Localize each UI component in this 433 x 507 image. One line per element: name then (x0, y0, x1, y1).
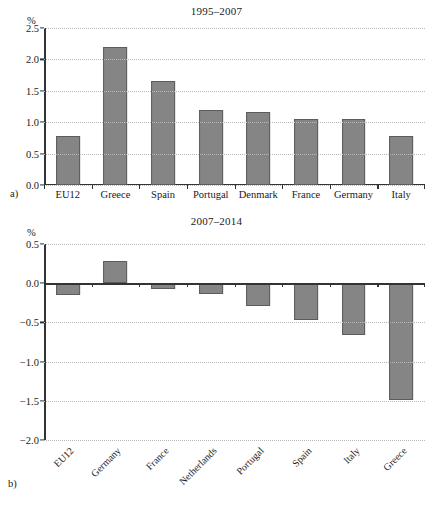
x-tick-mark (377, 185, 378, 189)
x-tick-mark (187, 283, 188, 287)
bar[interactable] (199, 283, 223, 294)
gridline (44, 91, 425, 92)
x-tick-label: Denmark (239, 189, 278, 200)
gridline (44, 28, 425, 29)
x-tick-mark (92, 283, 93, 287)
gridline (44, 362, 425, 363)
y-tick-label: 2.0 (26, 54, 39, 65)
bar-group: Denmark (235, 28, 283, 185)
y-tick-label: 1.5 (26, 85, 39, 96)
bar[interactable] (56, 283, 80, 295)
y-tick-mark (40, 439, 44, 440)
x-tick-label: Netherlands (177, 445, 219, 487)
y-tick-label: 2.5 (26, 23, 39, 34)
bar-group: France (282, 28, 330, 185)
bar-series-a: EU12GreeceSpainPortugalDenmarkFranceGerm… (44, 28, 425, 185)
chart-panel-b: 2007–2014 % EU12GermanyFranceNetherlands… (0, 213, 433, 507)
x-tick-mark (92, 185, 93, 189)
bar[interactable] (199, 110, 223, 185)
bar-group: Netherlands (187, 244, 235, 440)
x-tick-label: Italy (392, 189, 411, 200)
panel-letter-a: a) (10, 188, 18, 199)
y-tick-label: 0.0 (26, 180, 39, 191)
y-tick-mark (40, 27, 44, 28)
y-tick-label: −1.5 (20, 395, 39, 406)
y-tick-label: 0.0 (26, 278, 39, 289)
x-tick-mark (330, 283, 331, 287)
gridline (44, 440, 425, 441)
bar-group: Greece (92, 28, 140, 185)
plot-area-a: EU12GreeceSpainPortugalDenmarkFranceGerm… (44, 28, 425, 185)
y-tick-label: 0.5 (26, 239, 39, 250)
x-tick-label: France (292, 189, 321, 200)
x-tick-mark (235, 185, 236, 189)
chart-title-a: 1995–2007 (0, 5, 433, 17)
x-tick-label: Greece (381, 445, 409, 473)
bar-group: Germany (330, 28, 378, 185)
gridline (44, 122, 425, 123)
bar[interactable] (246, 283, 270, 306)
bar[interactable] (151, 81, 175, 185)
bar-group: Italy (377, 28, 425, 185)
x-tick-label: Germany (334, 189, 373, 200)
bar[interactable] (104, 47, 128, 185)
bar[interactable] (389, 136, 413, 185)
x-tick-label: Portugal (234, 445, 266, 477)
plot-area-b: EU12GermanyFranceNetherlandsPortugalSpai… (44, 244, 425, 440)
bar-group: Italy (330, 244, 378, 440)
y-tick-mark (40, 243, 44, 244)
figure: 1995–2007 % EU12GreeceSpainPortugalDenma… (0, 0, 433, 507)
gridline (44, 59, 425, 60)
x-tick-mark (139, 185, 140, 189)
x-tick-mark (330, 185, 331, 189)
y-tick-mark (40, 400, 44, 401)
bar[interactable] (56, 136, 80, 185)
x-tick-label: Greece (101, 189, 131, 200)
x-tick-label: Portugal (193, 189, 229, 200)
gridline (44, 322, 425, 323)
y-tick-mark (40, 90, 44, 91)
x-tick-mark (187, 185, 188, 189)
x-tick-mark (235, 283, 236, 287)
x-tick-mark (377, 283, 378, 287)
x-tick-label: Spain (290, 445, 314, 469)
y-tick-label: −1.0 (20, 356, 39, 367)
x-tick-mark (44, 185, 45, 189)
chart-panel-a: 1995–2007 % EU12GreeceSpainPortugalDenma… (0, 0, 433, 210)
bar-group: Portugal (235, 244, 283, 440)
gridline (44, 401, 425, 402)
x-tick-mark (44, 283, 45, 287)
x-tick-label: EU12 (51, 445, 75, 469)
bar-group: EU12 (44, 28, 92, 185)
x-tick-label: France (144, 445, 171, 472)
y-tick-mark (40, 122, 44, 123)
bar-group: Spain (139, 28, 187, 185)
bar[interactable] (342, 119, 366, 185)
panel-letter-b: b) (8, 478, 17, 489)
y-tick-label: 0.5 (26, 148, 39, 159)
x-tick-label: EU12 (56, 189, 81, 200)
x-tick-label: Italy (341, 445, 362, 466)
x-tick-mark (282, 185, 283, 189)
bar-group: Spain (282, 244, 330, 440)
x-tick-mark (139, 283, 140, 287)
y-tick-mark (40, 153, 44, 154)
bar[interactable] (294, 119, 318, 185)
bar-group: Germany (92, 244, 140, 440)
bar[interactable] (342, 283, 366, 335)
x-tick-label: Germany (89, 445, 123, 479)
bar[interactable] (294, 283, 318, 320)
bar-series-b: EU12GermanyFranceNetherlandsPortugalSpai… (44, 244, 425, 440)
bar[interactable] (389, 283, 413, 400)
gridline (44, 154, 425, 155)
bar-group: Greece (377, 244, 425, 440)
y-tick-label: 1.0 (26, 117, 39, 128)
bar[interactable] (104, 261, 128, 283)
x-tick-mark (424, 185, 425, 189)
x-tick-mark (424, 283, 425, 287)
y-tick-mark (40, 322, 44, 323)
bar-group: Portugal (187, 28, 235, 185)
x-tick-label: Spain (151, 189, 175, 200)
bar-group: EU12 (44, 244, 92, 440)
y-axis-unit-b: % (27, 227, 36, 238)
